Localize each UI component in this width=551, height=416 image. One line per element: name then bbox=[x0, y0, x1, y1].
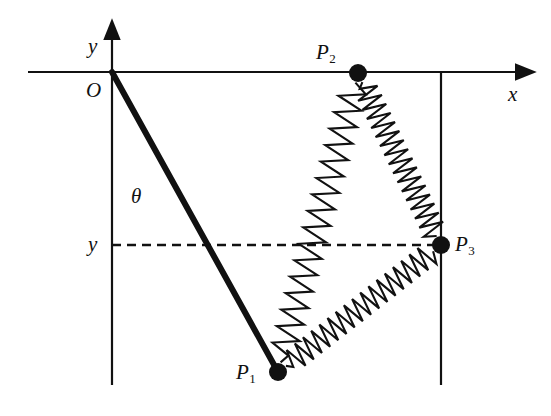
origin-label: O bbox=[86, 80, 101, 101]
figure-canvas: y x O y θ P1 P2 P3 bbox=[0, 0, 551, 416]
diagram-svg bbox=[0, 0, 551, 416]
mass-point-p1 bbox=[269, 363, 287, 381]
spring-p2-p3 bbox=[358, 82, 443, 237]
pendulum-rod bbox=[112, 72, 278, 372]
x-axis-label: x bbox=[508, 84, 517, 105]
point-label-subscript: 2 bbox=[329, 51, 336, 66]
mass-point-p3 bbox=[432, 236, 450, 254]
theta-angle-label: θ bbox=[131, 186, 141, 207]
point-label-subscript: 1 bbox=[249, 371, 256, 386]
point-label-p3: P3 bbox=[455, 234, 475, 257]
point-label-subscript: 3 bbox=[468, 243, 475, 258]
point-label-p2: P2 bbox=[316, 42, 336, 65]
y-axis-label: y bbox=[88, 36, 97, 57]
point-label-p1: P1 bbox=[236, 362, 256, 385]
y-coordinate-label: y bbox=[88, 234, 97, 255]
mass-point-p2 bbox=[349, 64, 367, 82]
